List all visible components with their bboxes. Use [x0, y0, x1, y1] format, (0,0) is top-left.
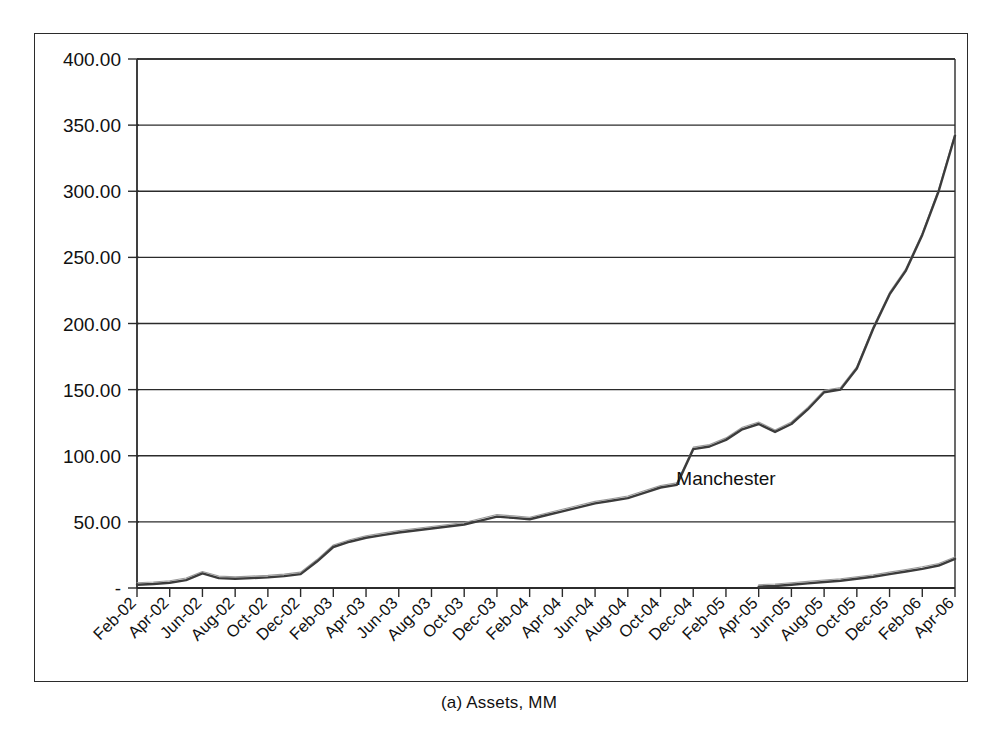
- figure-container: -50.00100.00150.00200.00250.00300.00350.…: [0, 0, 998, 736]
- y-tick-label: 150.00: [63, 380, 121, 401]
- series-label-manchester: Manchester: [676, 468, 776, 489]
- y-tick-label: 300.00: [63, 181, 121, 202]
- y-tick-label: 200.00: [63, 314, 121, 335]
- figure-caption: (a) Assets, MM: [0, 693, 998, 713]
- series-highlight-second-series: [759, 557, 955, 585]
- y-tick-label: 400.00: [63, 49, 121, 70]
- y-tick-label: 350.00: [63, 115, 121, 136]
- y-tick-label: 100.00: [63, 446, 121, 467]
- y-tick-label: 50.00: [73, 512, 121, 533]
- gridlines: [137, 59, 955, 588]
- series-line-manchester: [137, 136, 955, 585]
- y-tick-label: -: [115, 578, 121, 599]
- y-tick-label: 250.00: [63, 247, 121, 268]
- chart-frame: -50.00100.00150.00200.00250.00300.00350.…: [34, 33, 968, 682]
- x-axis-labels: Feb-02Apr-02Jun-02Aug-02Oct-02Dec-02Feb-…: [89, 593, 957, 643]
- data-series-group: [137, 134, 955, 587]
- line-chart: -50.00100.00150.00200.00250.00300.00350.…: [35, 34, 969, 683]
- y-axis-ticks: -50.00100.00150.00200.00250.00300.00350.…: [63, 49, 139, 599]
- x-axis-ticks: [137, 588, 955, 597]
